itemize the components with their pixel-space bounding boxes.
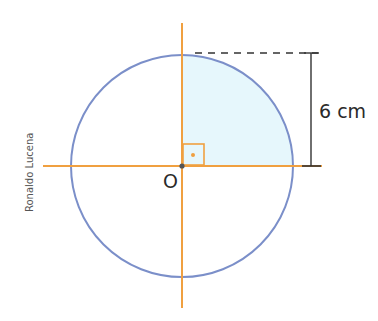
- shaded-quarter-sector: [182, 55, 293, 166]
- radius-label: 6 cm: [319, 100, 366, 122]
- right-angle-dot: [191, 153, 195, 157]
- image-credit: Ronaldo Lucena: [24, 133, 35, 212]
- center-point: [179, 163, 184, 168]
- center-label: O: [163, 170, 178, 192]
- circle-diagram: 6 cm O Ronaldo Lucena: [0, 0, 378, 321]
